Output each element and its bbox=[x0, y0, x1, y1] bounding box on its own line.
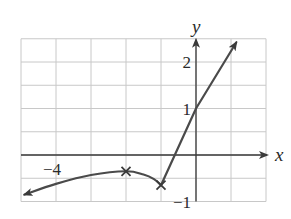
y-tick-label: 1 bbox=[183, 100, 192, 119]
series-right-branch bbox=[161, 42, 236, 185]
function-graph: x y −421−1 bbox=[0, 0, 291, 219]
y-tick-label: −1 bbox=[173, 193, 191, 212]
x-tick-label: −4 bbox=[43, 160, 62, 179]
y-axis-label: y bbox=[190, 16, 201, 37]
y-tick-label: 2 bbox=[183, 53, 192, 72]
x-axis-label: x bbox=[274, 144, 284, 165]
